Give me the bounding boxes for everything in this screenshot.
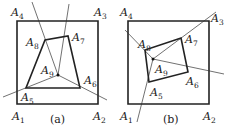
vertex-label-a4: A4 <box>10 6 24 21</box>
vertex-label-a5: A5 <box>149 86 163 101</box>
panel-a: A1A2A3A4A5A6A7A8A9(a) <box>3 2 107 126</box>
vertex-label-a1: A1 <box>119 110 133 125</box>
vertex-label-a3: A3 <box>210 12 224 27</box>
geometry-diagram: A1A2A3A4A5A6A7A8A9(a)A1A2A3A4A5A6A7A8A9(… <box>0 0 231 135</box>
panel-caption: (a) <box>50 113 65 126</box>
vertex-label-a5: A5 <box>20 91 34 106</box>
vertex-label-a2: A2 <box>202 110 216 125</box>
vertex-label-a7: A7 <box>71 31 85 46</box>
vertex-label-a6: A6 <box>185 75 199 90</box>
vertex-label-a9: A9 <box>40 64 54 79</box>
vertex-label-a4: A4 <box>119 6 133 21</box>
vertex-label-a8: A8 <box>25 36 39 51</box>
center-point <box>152 58 155 61</box>
panel-b: A1A2A3A4A5A6A7A8A9(b) <box>119 6 224 126</box>
vertex-label-a3: A3 <box>93 6 107 21</box>
vertex-label-a6: A6 <box>83 74 97 89</box>
vertex-label-a2: A2 <box>92 110 106 125</box>
vertex-label-a9: A9 <box>154 63 168 78</box>
construction-line <box>58 4 69 75</box>
panel-caption: (b) <box>163 113 179 126</box>
center-point <box>57 74 60 77</box>
outer-square <box>17 21 98 104</box>
vertex-label-a1: A1 <box>11 110 25 125</box>
vertex-label-a8: A8 <box>137 38 151 53</box>
vertex-label-a7: A7 <box>184 33 198 48</box>
